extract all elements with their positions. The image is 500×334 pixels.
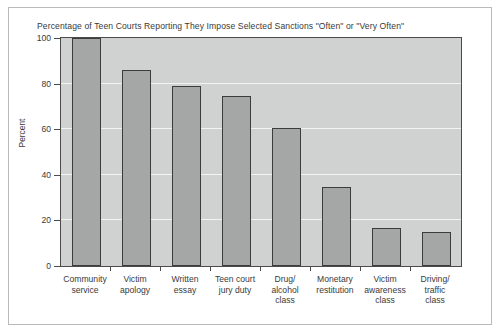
x-tick-label-line: Driving/ — [410, 274, 460, 285]
x-tick-mark — [410, 267, 411, 271]
bar — [122, 70, 151, 266]
chart-figure: Percentage of Teen Courts Reporting They… — [0, 0, 500, 334]
bar — [222, 96, 251, 266]
x-tick-label: Teen courtjury duty — [210, 274, 260, 295]
y-tick-mark — [54, 129, 61, 130]
x-tick-label-line: Victim — [360, 274, 410, 285]
x-tick-mark — [260, 267, 261, 271]
x-tick-label-line: restitution — [310, 285, 360, 296]
x-tick-label: Communityservice — [60, 274, 110, 295]
x-tick-label-line: class — [360, 295, 410, 306]
x-tick-label-line: class — [260, 295, 310, 306]
x-tick-label-line: awareness — [360, 285, 410, 296]
x-tick-label: Writtenessay — [160, 274, 210, 295]
chart-title: Percentage of Teen Courts Reporting They… — [37, 21, 404, 31]
x-tick-label-line: Teen court — [210, 274, 260, 285]
x-tick-mark — [160, 267, 161, 271]
bar-series — [61, 38, 461, 266]
x-tick-label-line: traffic — [410, 285, 460, 296]
x-tick-mark — [210, 267, 211, 271]
x-tick-label-line: Drug/ — [260, 274, 310, 285]
bar — [422, 232, 451, 266]
x-tick-label: Victimawarenessclass — [360, 274, 410, 306]
x-tick-label: Monetaryrestitution — [310, 274, 360, 295]
x-tick-mark — [310, 267, 311, 271]
x-axis: CommunityserviceVictimapologyWrittenessa… — [60, 267, 462, 327]
x-tick-label-line: Written — [160, 274, 210, 285]
x-tick-mark — [110, 267, 111, 271]
bar — [322, 187, 351, 266]
x-tick-label-line: jury duty — [210, 285, 260, 296]
x-tick-label: Victimapology — [110, 274, 160, 295]
y-tick-label: 40 — [25, 170, 51, 180]
x-tick-label-line: class — [410, 295, 460, 306]
x-tick-label-line: service — [60, 285, 110, 296]
bar — [272, 128, 301, 266]
x-tick-label-line: apology — [110, 285, 160, 296]
bar — [72, 38, 101, 266]
x-tick-label-line: Monetary — [310, 274, 360, 285]
x-tick-mark — [360, 267, 361, 271]
x-tick-label-line: alcohol — [260, 285, 310, 296]
x-tick-label: Driving/trafficclass — [410, 274, 460, 306]
y-tick-label: 100 — [25, 33, 51, 43]
x-tick-label-line: Victim — [110, 274, 160, 285]
y-tick-mark — [54, 38, 61, 39]
x-tick-label-line: Community — [60, 274, 110, 285]
y-tick-label: 60 — [25, 124, 51, 134]
bar — [372, 228, 401, 266]
y-tick-label: 80 — [25, 79, 51, 89]
y-tick-mark — [54, 175, 61, 176]
plot-area — [60, 37, 462, 267]
bar — [172, 86, 201, 266]
y-tick-mark — [54, 220, 61, 221]
x-tick-label-line: essay — [160, 285, 210, 296]
y-tick-mark — [54, 84, 61, 85]
y-tick-label: 0 — [25, 261, 51, 271]
x-tick-label: Drug/alcoholclass — [260, 274, 310, 306]
y-tick-label: 20 — [25, 215, 51, 225]
